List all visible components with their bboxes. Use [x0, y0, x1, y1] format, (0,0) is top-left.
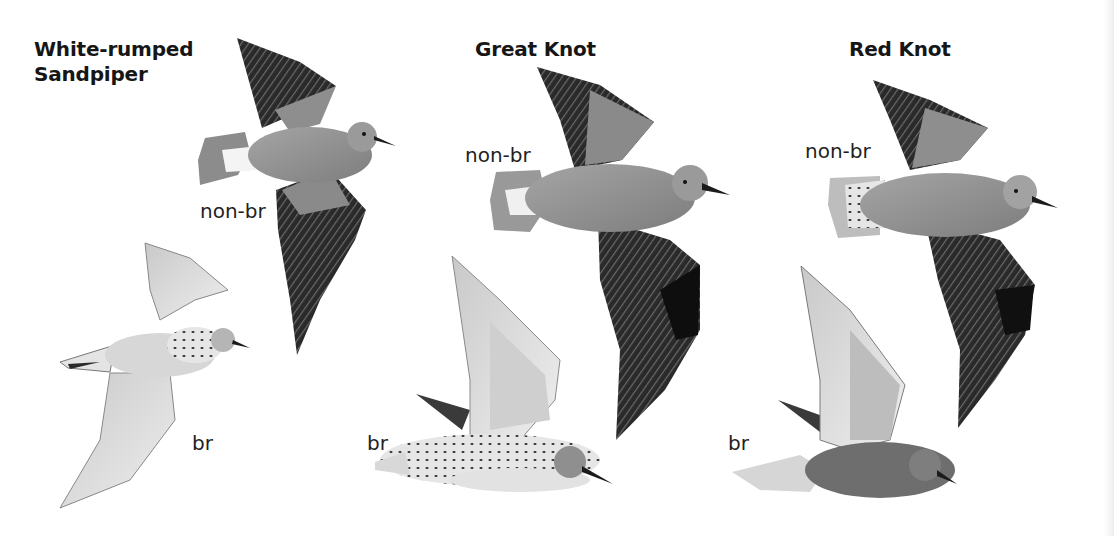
plumage-label-red-knot-non-br: non-br	[805, 140, 871, 162]
red-knot-br-figure	[732, 266, 957, 498]
species-title-red-knot: Red Knot	[849, 37, 951, 62]
plumage-label-white-rumped-non-br: non-br	[200, 200, 266, 222]
white-rumped-sandpiper-non-br-figure	[198, 38, 396, 355]
plumage-label-red-knot-br: br	[728, 432, 749, 454]
species-title-line1: White-rumped	[34, 37, 193, 62]
plumage-label-white-rumped-br: br	[192, 432, 213, 454]
species-title-great-knot: Great Knot	[475, 37, 596, 62]
great-knot-br-figure	[375, 256, 613, 492]
white-rumped-sandpiper-br-figure	[60, 243, 250, 508]
page-edge-shadow	[1104, 0, 1114, 536]
species-title-white-rumped-sandpiper: White-rumped Sandpiper	[34, 37, 193, 87]
plumage-label-great-knot-non-br: non-br	[465, 144, 531, 166]
plumage-label-great-knot-br: br	[367, 432, 388, 454]
species-title-line2: Sandpiper	[34, 62, 193, 87]
